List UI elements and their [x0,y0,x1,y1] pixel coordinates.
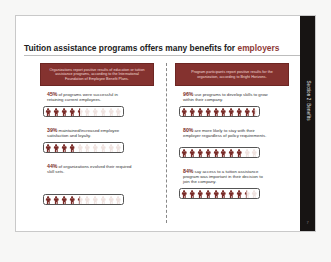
person-icon [45,196,51,204]
figure-bar [179,188,260,199]
person-icon [77,196,83,204]
person-icon [236,149,242,157]
person-icon [100,144,106,152]
person-icon [220,149,226,157]
person-icon [92,108,98,116]
person-icon [205,108,211,116]
person-icon [244,108,250,116]
person-icon [236,190,242,198]
person-icon [61,196,67,204]
person-icon [108,108,114,116]
person-icon [220,108,226,116]
person-icon [213,149,219,157]
person-icon [53,196,59,204]
person-icon [251,149,257,157]
stat-text: use programs to develop skills to grow w… [183,92,268,102]
person-icon [205,190,211,198]
person-icon [77,108,83,116]
person-icon [189,108,195,116]
person-icon [53,108,59,116]
page-title: Tuition assistance programs offers many … [24,43,279,53]
person-icon [213,108,219,116]
person-icon [45,144,51,152]
person-icon [189,149,195,157]
stat-text: of programs were successful in retaining… [47,92,118,102]
person-icon [61,144,67,152]
person-icon [84,144,90,152]
person-icon [181,190,187,198]
page-number: 7 [300,220,315,225]
person-icon [92,144,98,152]
person-icon [244,190,250,198]
stat-right-2: 80% are more likely to stay with their e… [183,128,268,138]
section-label: Section 2: Benefits [305,80,310,120]
person-icon [100,108,106,116]
person-icon [100,196,106,204]
figure-bar [43,106,124,117]
person-icon [108,144,114,152]
person-icon [108,196,114,204]
figure-bar [43,194,124,205]
person-icon [77,144,83,152]
person-icon [84,196,90,204]
person-icon [181,108,187,116]
person-icon [53,144,59,152]
person-icon [220,190,226,198]
person-icon [115,196,121,204]
person-icon [213,190,219,198]
person-icon [189,190,195,198]
person-icon [197,108,203,116]
stat-text: say access to a tuition assistance progr… [183,169,263,184]
left-banner-text: Organizations report positive results of… [47,68,147,82]
right-banner: Program participants report positive res… [175,63,289,86]
person-icon [69,108,75,116]
title-rule [24,55,302,56]
column-divider [166,63,167,223]
left-banner: Organizations report positive results of… [40,63,154,86]
stat-right-3: 84% say access to a tuition assistance p… [183,169,268,184]
right-banner-text: Program participants report positive res… [182,70,282,79]
person-icon [61,108,67,116]
stat-text: of organizations evolved their required … [47,164,131,174]
title-text: Tuition assistance programs offers many … [24,43,237,53]
figure-bar [179,106,260,117]
stat-left-2: 39% maintained/increased employee satisf… [47,128,132,138]
stat-left-3: 44% of organizations evolved their requi… [47,164,132,174]
stat-right-1: 96% use programs to develop skills to gr… [183,92,268,102]
person-icon [197,190,203,198]
figure-bar [43,142,124,153]
stat-left-1: 45% of programs were successful in retai… [47,92,132,102]
person-icon [69,196,75,204]
title-accent: employers [237,43,279,53]
figure-bar [179,147,260,158]
person-icon [115,144,121,152]
person-icon [236,108,242,116]
person-icon [115,108,121,116]
person-icon [228,108,234,116]
person-icon [228,149,234,157]
person-icon [197,149,203,157]
person-icon [69,144,75,152]
stat-text: are more likely to stay with their emplo… [183,128,266,138]
person-icon [181,149,187,157]
person-icon [45,108,51,116]
person-icon [84,108,90,116]
person-icon [244,149,250,157]
person-icon [228,190,234,198]
person-icon [92,196,98,204]
person-icon [205,149,211,157]
person-icon [251,108,257,116]
section-sidebar: Section 2: Benefits 7 [300,16,315,231]
person-icon [251,190,257,198]
stat-text: maintained/increased employee satisfacti… [47,128,119,138]
slide-page: Tuition assistance programs offers many … [15,15,316,232]
